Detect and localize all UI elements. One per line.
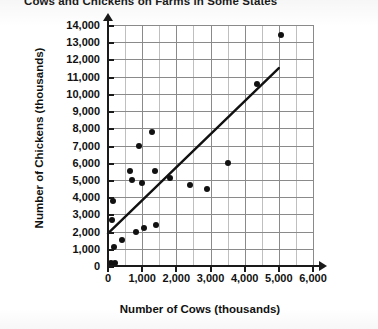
data-point bbox=[109, 217, 115, 223]
data-point bbox=[254, 81, 260, 87]
y-tick-label: 8,000 bbox=[42, 122, 100, 134]
data-point bbox=[278, 32, 284, 38]
y-tick-mark bbox=[108, 249, 114, 251]
y-tick-label: 7,000 bbox=[42, 140, 100, 152]
x-axis-tick-labels: 01,0002,0003,0004,0005,0006,000 bbox=[0, 272, 378, 288]
y-tick-label: 6,000 bbox=[42, 157, 100, 169]
data-point bbox=[133, 229, 139, 235]
scatter-plot-figure: Cows and Chickens on Farms in Some State… bbox=[0, 0, 378, 329]
x-axis-line bbox=[108, 265, 321, 267]
x-tick-mark bbox=[244, 266, 246, 272]
y-tick-mark bbox=[108, 163, 114, 165]
x-tick-mark bbox=[107, 266, 109, 272]
x-axis-label: Number of Cows (thousands) bbox=[70, 303, 330, 315]
y-tick-label: 10,000 bbox=[42, 88, 100, 100]
data-point bbox=[204, 186, 210, 192]
y-axis-line bbox=[107, 18, 109, 267]
x-tick-mark bbox=[278, 266, 280, 272]
y-tick-label: 11,000 bbox=[42, 71, 100, 83]
data-point bbox=[141, 225, 147, 231]
y-tick-label: 12,000 bbox=[42, 53, 100, 65]
y-tick-label: 13,000 bbox=[42, 36, 100, 48]
y-tick-label: 9,000 bbox=[42, 105, 100, 117]
data-point bbox=[167, 175, 173, 181]
y-tick-label: 1,000 bbox=[42, 243, 100, 255]
y-tick-mark bbox=[108, 59, 114, 61]
y-tick-label: 3,000 bbox=[42, 208, 100, 220]
y-tick-mark bbox=[108, 146, 114, 148]
plot-area bbox=[108, 25, 313, 266]
y-tick-label: 4,000 bbox=[42, 191, 100, 203]
data-point bbox=[129, 177, 135, 183]
y-tick-mark bbox=[108, 197, 114, 199]
y-tick-mark bbox=[108, 180, 114, 182]
y-tick-mark bbox=[108, 111, 114, 113]
y-tick-mark bbox=[108, 94, 114, 96]
x-tick-label: 6,000 bbox=[285, 272, 341, 285]
x-axis-arrow-icon bbox=[319, 261, 327, 271]
y-tick-mark bbox=[108, 128, 114, 130]
grid-line-vertical bbox=[313, 25, 314, 266]
y-tick-mark bbox=[108, 214, 114, 216]
x-tick-mark bbox=[141, 266, 143, 272]
x-tick-mark bbox=[312, 266, 314, 272]
y-axis-arrow-icon bbox=[103, 13, 113, 21]
y-tick-label: 5,000 bbox=[42, 174, 100, 186]
y-tick-mark bbox=[108, 232, 114, 234]
y-tick-label: 14,000 bbox=[42, 19, 100, 31]
y-tick-label: 2,000 bbox=[42, 226, 100, 238]
data-point bbox=[136, 143, 142, 149]
y-tick-mark bbox=[108, 77, 114, 79]
data-point bbox=[153, 222, 159, 228]
data-point bbox=[225, 160, 231, 166]
y-tick-mark bbox=[108, 25, 114, 27]
x-tick-mark bbox=[175, 266, 177, 272]
x-tick-mark bbox=[210, 266, 212, 272]
y-tick-mark bbox=[108, 42, 114, 44]
y-tick-label: 0 bbox=[42, 260, 100, 272]
